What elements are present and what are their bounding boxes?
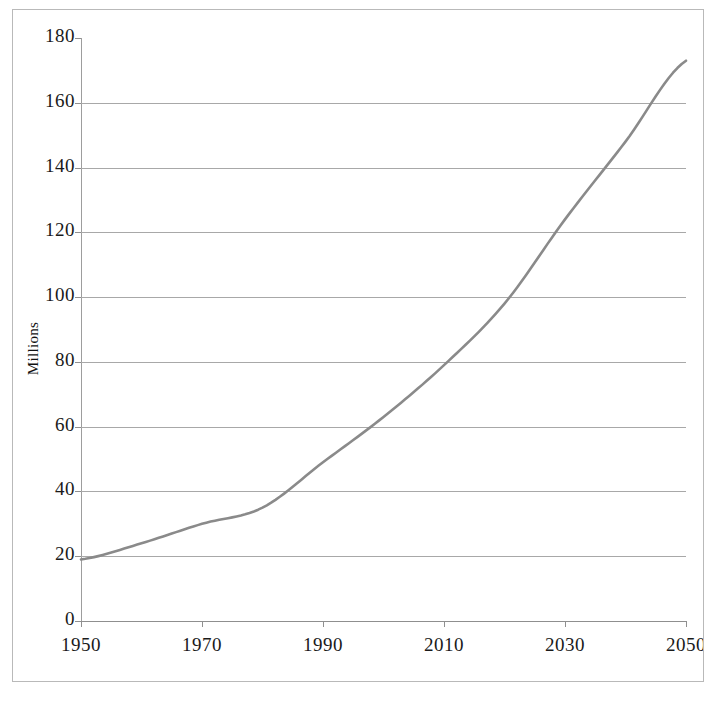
x-tick-label-2010: 2010 xyxy=(424,634,464,656)
x-tick-label-1950: 1950 xyxy=(61,634,101,656)
x-tick-1970 xyxy=(202,621,203,627)
x-tick-2030 xyxy=(565,621,566,627)
y-tick-label-20: 20 xyxy=(55,543,75,565)
y-tick-label-140: 140 xyxy=(45,155,75,177)
chart-frame: 020406080100120140160180 Millions 195019… xyxy=(12,9,704,682)
x-axis-tick-labels: 195019701990201020302050 xyxy=(81,634,686,664)
y-tick-label-120: 120 xyxy=(45,219,75,241)
y-tick-label-60: 60 xyxy=(55,414,75,436)
x-tick-label-2050: 2050 xyxy=(666,634,704,656)
y-tick-label-40: 40 xyxy=(55,478,75,500)
gridline-0 xyxy=(81,621,686,622)
y-tick-label-0: 0 xyxy=(65,608,75,630)
y-tick-label-180: 180 xyxy=(45,25,75,47)
x-tick-2010 xyxy=(444,621,445,627)
y-tick-label-100: 100 xyxy=(45,284,75,306)
x-tick-label-1970: 1970 xyxy=(182,634,222,656)
y-tick-label-80: 80 xyxy=(55,349,75,371)
series-line-population xyxy=(81,38,686,621)
x-tick-2050 xyxy=(686,621,687,627)
x-tick-1950 xyxy=(81,621,82,627)
plot-area xyxy=(81,38,686,621)
x-tick-1990 xyxy=(323,621,324,627)
y-tick-label-160: 160 xyxy=(45,90,75,112)
x-tick-label-1990: 1990 xyxy=(303,634,343,656)
y-axis-title: Millions xyxy=(25,294,42,404)
x-tick-label-2030: 2030 xyxy=(545,634,585,656)
